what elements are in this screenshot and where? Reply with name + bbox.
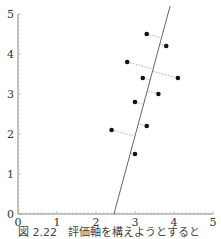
axes <box>18 14 213 214</box>
y-tick-label: 4 <box>7 48 14 61</box>
x-tick-label: 5 <box>210 216 217 229</box>
y-tick-label: 5 <box>7 8 14 21</box>
data-points <box>109 32 180 157</box>
axis-ticks: 012345012345 <box>7 8 217 229</box>
data-point <box>133 152 138 157</box>
data-point <box>176 76 181 81</box>
data-point <box>164 44 169 49</box>
figure-caption: 図 2.22 評価軸を構えようとすると <box>18 226 200 239</box>
data-point <box>125 60 130 65</box>
scatter-chart: 012345012345 <box>0 0 221 239</box>
y-tick-label: 1 <box>7 168 14 181</box>
y-tick-label: 0 <box>7 208 14 221</box>
axis-line <box>114 6 170 214</box>
y-tick-label: 2 <box>7 128 14 141</box>
data-point <box>141 76 146 81</box>
y-tick-label: 3 <box>7 88 14 101</box>
data-point <box>144 124 149 129</box>
data-point <box>156 92 161 97</box>
data-point <box>109 128 114 133</box>
data-point <box>133 100 138 105</box>
data-point <box>144 32 149 37</box>
projection-line <box>127 62 153 69</box>
projection-line <box>153 71 178 78</box>
evaluation-axis-line <box>114 6 170 214</box>
projection-lines <box>112 34 178 154</box>
projection-line <box>112 130 135 136</box>
